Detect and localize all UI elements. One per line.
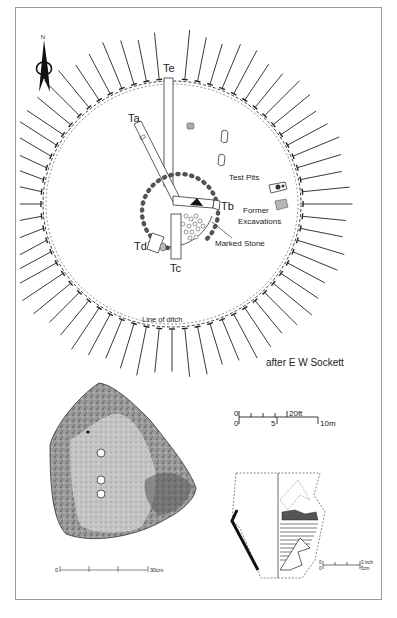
plan-scale-bar: [239, 411, 318, 424]
pottery-sherd-drawing: [232, 473, 325, 578]
cup-mark-icon: [97, 476, 105, 484]
cup-mark-icon: [97, 449, 105, 457]
svg-text:N: N: [41, 34, 45, 40]
svg-text:5cm: 5cm: [361, 566, 370, 571]
label-te: Te: [163, 62, 175, 74]
label-excavations: Excavations: [238, 217, 281, 226]
label-ta: Ta: [128, 112, 141, 124]
label-tc: Tc: [170, 262, 182, 274]
label-former: Former: [243, 206, 269, 215]
north-arrow-icon: N: [37, 34, 52, 92]
trench-tc: [171, 214, 181, 259]
svg-text:0: 0: [234, 409, 239, 418]
credit-text: after E W Sockett: [266, 357, 344, 368]
svg-text:30cm: 30cm: [150, 567, 164, 573]
svg-text:10m: 10m: [320, 419, 336, 428]
stone-scale-bar: [60, 566, 148, 572]
svg-text:3 inch: 3 inch: [361, 560, 374, 565]
label-marked-stone: Marked Stone: [215, 239, 265, 248]
label-td: Td: [134, 240, 147, 252]
cobble-spread: [181, 214, 205, 240]
svg-text:0: 0: [234, 419, 239, 428]
label-test-pits: Test Pits: [229, 173, 259, 182]
label-tb: Tb: [221, 200, 234, 212]
svg-text:20ft: 20ft: [289, 409, 303, 418]
svg-text:0: 0: [319, 560, 322, 565]
site-plan-figure: N Te Ta Tb Tc: [0, 0, 397, 618]
pottery-scale-bar: [323, 561, 360, 569]
svg-text:0: 0: [319, 566, 322, 571]
svg-text:5: 5: [271, 419, 276, 428]
cup-mark-icon: [97, 490, 105, 498]
svg-text:0: 0: [55, 567, 58, 573]
marked-stone-leader: [212, 222, 232, 238]
label-line-of-ditch: Line of ditch: [142, 315, 182, 324]
marked-stone-drawing: [50, 383, 196, 539]
former-excavation-marker: [275, 199, 288, 210]
